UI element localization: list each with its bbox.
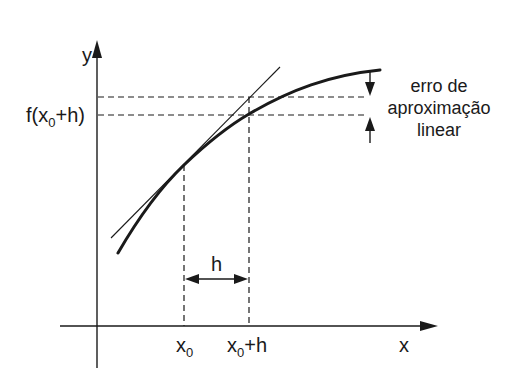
x-axis-arrow-icon [420, 321, 438, 331]
f-x0h-label: f(x0+h) [26, 104, 85, 130]
error-label: erro de aproximação linear [387, 76, 490, 140]
h-label: h [211, 253, 222, 275]
svg-text:erro de: erro de [410, 76, 467, 96]
y-axis-arrow-icon [92, 40, 102, 58]
arrow-down-icon [365, 82, 375, 96]
y-axis-label: y [82, 44, 92, 66]
svg-text:x0+h: x0+h [227, 334, 267, 360]
arrow-up-icon [365, 117, 375, 131]
error-arrows [365, 71, 375, 143]
linear-approximation-diagram: y x f(x0+h) x0 x0+h h erro de aproximaçã… [0, 0, 518, 376]
svg-text:x0: x0 [176, 334, 193, 360]
svg-text:aproximação: aproximação [387, 98, 490, 118]
x0h-label: x0+h [227, 334, 267, 360]
y-axis [92, 40, 102, 368]
svg-text:linear: linear [417, 120, 461, 140]
x0-label: x0 [176, 334, 193, 360]
h-double-arrow [185, 274, 248, 284]
svg-text:f(x0+h): f(x0+h) [26, 104, 85, 130]
x-axis-label: x [399, 334, 409, 356]
